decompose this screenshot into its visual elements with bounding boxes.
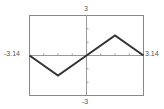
- y-min-label: -3: [82, 98, 88, 106]
- x-min-label: -3.14: [4, 50, 20, 58]
- plot-canvas: [0, 0, 164, 109]
- x-max-label: 3.14: [145, 50, 159, 58]
- y-max-label: 3: [84, 5, 88, 13]
